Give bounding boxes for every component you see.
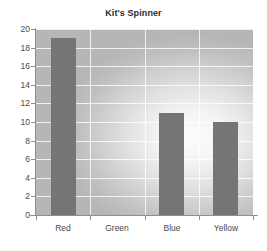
x-tick-mark [145,216,146,220]
y-tick-label-wrap: 0 [0,215,30,216]
y-tick-label: 10 [4,118,30,127]
y-tick-label: 0 [4,211,30,220]
bar-blue [159,113,184,215]
y-tick-label-wrap: 4 [0,178,30,179]
y-tick-mark [31,66,36,67]
y-tick-label: 2 [4,192,30,201]
x-label-red: Red [36,224,90,233]
y-tick-label-wrap: 14 [0,85,30,86]
y-tick-mark [31,29,36,30]
y-tick-label-wrap: 20 [0,29,30,30]
x-tick-mark [253,216,254,220]
y-tick-label-wrap: 2 [0,196,30,197]
y-tick-mark [31,122,36,123]
bar-red [51,38,76,215]
gridline-vertical [145,29,146,215]
y-tick-label-wrap: 18 [0,48,30,49]
x-tick-mark [90,216,91,220]
y-tick-label: 12 [4,99,30,108]
y-tick-mark [31,196,36,197]
y-tick-label: 16 [4,62,30,71]
bar-yellow [213,122,238,215]
y-tick-mark [31,48,36,49]
plot-area [36,29,253,215]
x-tick-mark [36,216,37,220]
y-tick-label-wrap: 6 [0,159,30,160]
y-tick-label: 14 [4,81,30,90]
y-tick-label-wrap: 8 [0,141,30,142]
x-tick-mark [199,216,200,220]
y-tick-label: 18 [4,44,30,53]
x-label-yellow: Yellow [199,224,253,233]
y-tick-label: 20 [4,25,30,34]
y-tick-mark [31,85,36,86]
x-axis-line [30,215,258,216]
y-tick-mark [31,103,36,104]
y-tick-mark [31,159,36,160]
y-tick-label-wrap: 12 [0,103,30,104]
chart-title: Kit's Spinner [0,8,267,18]
y-tick-label: 6 [4,155,30,164]
y-tick-mark [31,178,36,179]
x-label-blue: Blue [145,224,199,233]
y-tick-mark [31,141,36,142]
y-tick-label-wrap: 10 [0,122,30,123]
bar-chart: Kit's Spinner 02468101214161820 RedGreen… [0,0,267,251]
gridline-vertical [199,29,200,215]
y-tick-label-wrap: 16 [0,66,30,67]
y-tick-label: 8 [4,137,30,146]
y-tick-label: 4 [4,174,30,183]
x-label-green: Green [90,224,144,233]
gridline-vertical [90,29,91,215]
